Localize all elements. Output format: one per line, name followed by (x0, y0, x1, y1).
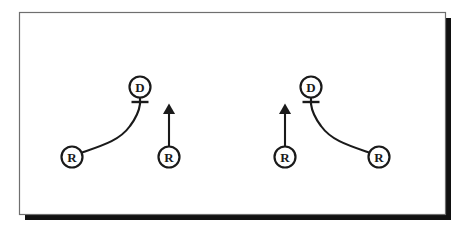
left-inside-receiver-r-label: R (164, 150, 174, 165)
left-outside-receiver-r-label: R (67, 150, 77, 165)
right-defender-d-label: D (306, 80, 315, 95)
left-defender-d-label: D (135, 80, 144, 95)
diagram-frame (20, 13, 446, 215)
right-outside-receiver-r-label: R (374, 150, 384, 165)
left-outside-receiver-r[interactable]: R (62, 147, 83, 168)
play-diagram-canvas: DRRDRR (0, 0, 472, 234)
left-inside-receiver-r[interactable]: R (159, 147, 180, 168)
play-diagram-figure: Football play diagram - two mirrored rec… (0, 0, 472, 234)
right-outside-receiver-r[interactable]: R (369, 147, 390, 168)
right-inside-receiver-r-label: R (280, 150, 290, 165)
right-inside-receiver-r[interactable]: R (275, 147, 296, 168)
